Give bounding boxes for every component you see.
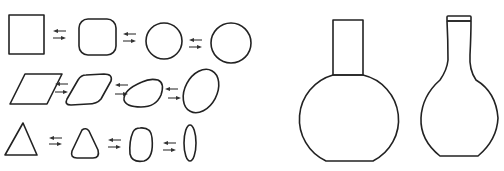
flask-rectangular-neck: [333, 20, 363, 75]
reversible-arrow: [108, 138, 121, 149]
smooth-flask: [421, 16, 498, 156]
geometric-flask: [299, 20, 398, 161]
row-triangle-to-ellipse: [5, 123, 196, 161]
row-square-to-circle: [9, 15, 251, 63]
rounded-blob-shape: [124, 79, 163, 107]
square-shape: [9, 15, 44, 54]
circle-shape-final: [211, 23, 251, 63]
parallelogram-shape: [10, 74, 62, 104]
rounded-parallelogram-shape: [66, 74, 111, 105]
reversible-arrow: [123, 32, 136, 43]
tilted-ellipse-shape: [176, 63, 226, 119]
triangle-shape: [5, 123, 37, 155]
flask-smooth-body: [421, 21, 498, 156]
narrow-ellipse-shape: [184, 125, 196, 161]
circle-shape: [146, 23, 182, 59]
shape-morphing-diagram: [0, 0, 504, 171]
reversible-arrow: [163, 141, 176, 152]
rounded-egg-shape: [130, 128, 153, 161]
rounded-triangle-shape: [72, 129, 99, 158]
reversible-arrow: [165, 87, 181, 100]
reversible-arrow: [49, 136, 62, 146]
flask-round-body: [299, 75, 398, 161]
reversible-arrow: [189, 38, 202, 49]
row-parallelogram-to-ellipse: [10, 63, 226, 119]
reversible-arrow: [53, 29, 66, 40]
rounded-square-shape: [79, 19, 116, 55]
reversible-arrow: [55, 82, 68, 94]
